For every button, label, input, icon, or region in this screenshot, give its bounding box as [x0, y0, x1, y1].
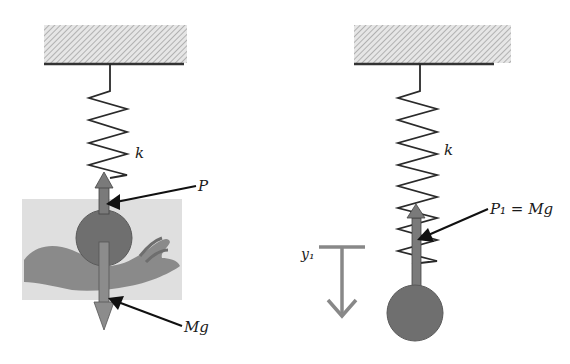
force-label-Mg: Mg — [183, 318, 209, 336]
spring-left — [89, 64, 127, 178]
displacement-arrow-y1 — [319, 247, 365, 316]
left-panel: k P Mg — [22, 25, 209, 336]
displacement-label-y1: y₁ — [300, 246, 315, 262]
force-arrow-up-P1 — [407, 204, 425, 288]
force-label-P1-equals-Mg: P₁ = Mg — [489, 200, 553, 218]
spring-constant-label-left: k — [135, 144, 144, 162]
force-label-P: P — [197, 177, 209, 195]
mass-right — [387, 285, 443, 341]
ceiling-left — [44, 25, 187, 64]
leader-line-Mg — [108, 296, 182, 326]
right-panel: k P₁ = Mg y₁ — [300, 25, 553, 341]
spring-constant-label-right: k — [444, 141, 453, 159]
ceiling-right — [354, 25, 511, 64]
spring-mass-diagram: k P Mg — [0, 0, 570, 364]
leader-line-P1 — [417, 209, 488, 242]
